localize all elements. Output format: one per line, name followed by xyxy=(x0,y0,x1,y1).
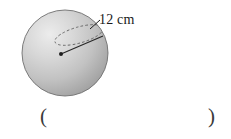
open-paren: ( xyxy=(40,104,47,128)
answer-blank: ( ) xyxy=(0,104,231,136)
center-dot xyxy=(59,52,63,56)
figure-page: 12 cm ( ) xyxy=(0,0,231,139)
dimension-label: 12 cm xyxy=(99,12,135,28)
sphere-body xyxy=(22,10,108,96)
close-paren: ) xyxy=(208,104,215,128)
